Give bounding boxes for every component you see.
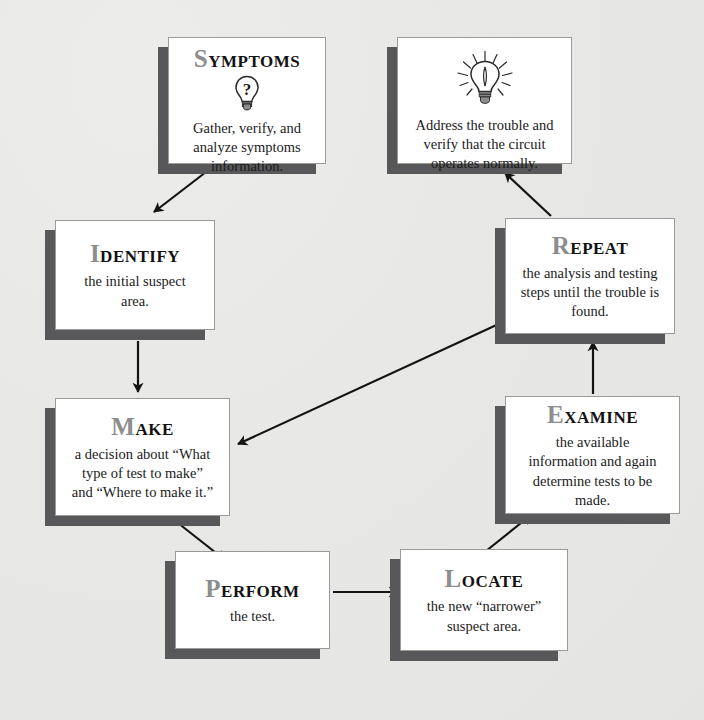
node-body: the analysis and testing steps until the… (516, 264, 664, 321)
node-title-initial: I (90, 240, 100, 267)
node-card: SYMPTOMS ? Gather, verify, and analyze s… (168, 37, 326, 164)
node-address[interactable]: Address the trouble and verify that the … (397, 37, 572, 164)
edge-repeat-to-address (505, 173, 551, 216)
question-mark-lightbulb-icon: ? (232, 73, 262, 111)
node-title: REPEAT (552, 233, 628, 258)
node-title-initial: S (194, 45, 208, 72)
svg-text:?: ? (243, 80, 252, 99)
node-title-rest: YMPTOMS (208, 52, 300, 71)
node-body: a decision about “What type of test to m… (66, 445, 219, 502)
node-body: the new “narrower” suspect area. (411, 597, 557, 635)
node-symptoms[interactable]: SYMPTOMS ? Gather, verify, and analyze s… (168, 37, 326, 164)
node-card: PERFORM the test. (175, 551, 330, 649)
node-title-initial: M (111, 413, 135, 440)
node-card: MAKE a decision about “What type of test… (55, 398, 230, 516)
node-title-rest: OCATE (462, 572, 524, 591)
edge-symptoms-to-identify (154, 172, 206, 212)
node-title-initial: P (205, 575, 221, 602)
node-make[interactable]: MAKE a decision about “What type of test… (55, 398, 230, 516)
node-body: Gather, verify, and analyze symptoms inf… (179, 119, 315, 176)
edge-repeat-to-make (238, 322, 503, 444)
node-body: the initial suspect area. (66, 272, 204, 310)
node-examine[interactable]: EXAMINE the available information and ag… (505, 396, 680, 514)
node-card: REPEAT the analysis and testing steps un… (505, 218, 675, 334)
node-title: LOCATE (445, 566, 524, 591)
node-title: PERFORM (205, 576, 299, 601)
node-title-rest: XAMINE (564, 408, 638, 427)
node-body: the available information and again dete… (516, 433, 669, 510)
node-card: EXAMINE the available information and ag… (505, 396, 680, 514)
node-perform[interactable]: PERFORM the test. (175, 551, 330, 649)
node-locate[interactable]: LOCATE the new “narrower” suspect area. (400, 549, 568, 651)
node-body: the test. (226, 607, 279, 626)
node-title-initial: E (547, 401, 564, 428)
node-title-initial: R (552, 232, 571, 259)
node-title-initial: L (445, 565, 462, 592)
lit-lightbulb-icon (446, 50, 524, 108)
node-title: EXAMINE (547, 402, 638, 427)
node-card: IDENTIFY the initial suspect area. (55, 220, 215, 330)
diagram-canvas: SYMPTOMS ? Gather, verify, and analyze s… (0, 0, 704, 720)
node-title-rest: AKE (135, 420, 173, 439)
node-title: IDENTIFY (90, 241, 180, 266)
node-card: LOCATE the new “narrower” suspect area. (400, 549, 568, 651)
node-card: Address the trouble and verify that the … (397, 37, 572, 164)
node-title: MAKE (111, 414, 173, 439)
arrow-layer (0, 0, 704, 720)
node-title: SYMPTOMS (194, 46, 300, 71)
node-title-rest: ERFORM (221, 582, 300, 601)
node-title-rest: EPEAT (570, 239, 628, 258)
node-title-rest: DENTIFY (100, 247, 180, 266)
node-identify[interactable]: IDENTIFY the initial suspect area. (55, 220, 215, 330)
node-body: Address the trouble and verify that the … (408, 116, 561, 173)
node-repeat[interactable]: REPEAT the analysis and testing steps un… (505, 218, 675, 334)
